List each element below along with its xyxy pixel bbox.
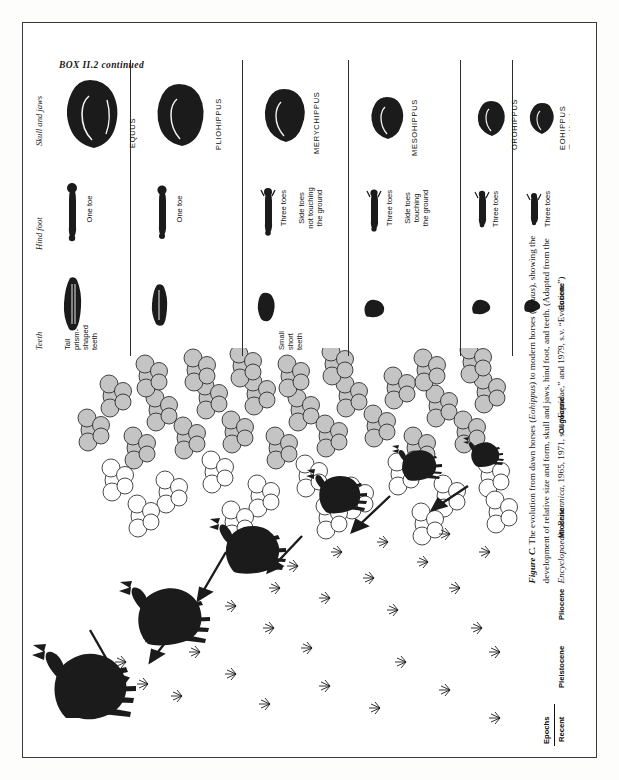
genus-label-mesohippus: MESOHIPPUS	[410, 99, 419, 156]
genus-label-equus: EQUUS	[128, 118, 137, 148]
figure-caption-genus-2: Equus	[527, 288, 537, 311]
figure-caption-genus-1: Eohippus	[527, 385, 537, 420]
figure-rotated-container: Teeth Hind foot Skull and jaws	[30, 60, 570, 750]
foliage-mass	[78, 348, 518, 545]
hind-foot-orohippus-icon	[474, 184, 490, 234]
figure-caption: Figure C. The evolution from dawn horses…	[525, 211, 568, 583]
skull-equus-icon	[60, 76, 122, 154]
group-rule-4	[460, 60, 461, 356]
skull-orohippus-icon	[474, 100, 508, 140]
column-header-skull-and-jaws: Skull and jaws	[34, 96, 44, 146]
column-header-teeth: Teeth	[34, 332, 44, 350]
foot-note-pliohippus: One toe	[176, 166, 185, 252]
figure-landscape-canvas: Teeth Hind foot Skull and jaws	[30, 60, 570, 750]
foot-note-merychippus: Three toes Side toes not touching the gr…	[280, 160, 325, 256]
group-rule-3	[348, 60, 349, 356]
tooth-pliohippus-icon	[150, 282, 170, 328]
figure-caption-label: Figure C.	[527, 547, 537, 584]
tooth-orohippus-icon	[470, 296, 492, 318]
skull-pliohippus-icon	[150, 80, 208, 152]
genus-label-pliohippus: PLIOHIPPUS	[214, 98, 223, 150]
scene-svg	[30, 348, 542, 748]
tooth-mesohippus-icon	[362, 294, 386, 322]
figure-caption-text-1: The evolution from dawn horses (	[527, 420, 537, 545]
figure-caption-text-4: , 1965, 1971, s.v. “Equidae,” and 1979, …	[555, 277, 565, 488]
hind-foot-equus-icon	[64, 176, 80, 246]
horse-equus	[32, 644, 136, 719]
tooth-merychippus-icon	[256, 290, 278, 324]
column-header-hind-foot: Hind foot	[34, 217, 44, 250]
table-row: Tall prism- shaped teeth One toe	[148, 60, 228, 356]
evolution-scene-illustration	[30, 348, 542, 748]
horse-pliohippus	[119, 581, 210, 645]
figure-caption-text-2: ) to modern horses (	[527, 311, 537, 385]
page-canvas: BOX II.2 continued	[0, 0, 619, 780]
group-rule-2	[242, 60, 243, 356]
skull-mesohippus-icon	[366, 96, 406, 144]
genus-label-orohippus: OROHIPPUS	[510, 99, 519, 150]
comparison-table: Teeth Hind foot Skull and jaws	[30, 60, 570, 356]
table-row: Three toes OROHIPPUS	[470, 60, 514, 356]
foot-note-mesohippus: Three toes Side toes touching the ground	[386, 162, 431, 254]
teeth-note-pliohippus: Tall prism- shaped teeth	[64, 270, 100, 350]
foot-note-equus: One toe	[86, 166, 95, 252]
group-rule-1	[130, 60, 131, 356]
hind-foot-mesohippus-icon	[366, 182, 382, 238]
foot-note-orohippus: Three toes	[492, 166, 501, 252]
genus-label-merychippus: MERYCHIPPUS	[312, 91, 321, 154]
hind-foot-merychippus-icon	[260, 180, 276, 242]
table-row: Small short teeth Three toes Side toes t…	[360, 60, 440, 356]
hind-foot-pliohippus-icon	[154, 178, 170, 244]
skull-merychippus-icon	[258, 86, 308, 148]
teeth-note-mesohippus: Small short teeth	[278, 276, 305, 350]
figure-caption-container: Figure C. The evolution from dawn horses…	[498, 372, 594, 752]
figure-caption-source: Encyclopaedia Britannica	[555, 487, 565, 583]
